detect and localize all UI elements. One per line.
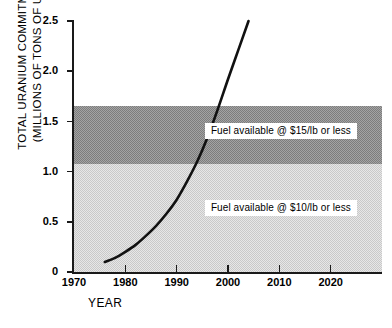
- x-axis-title: YEAR: [88, 296, 122, 310]
- y-tick-label-2.0: 2.0: [43, 64, 58, 76]
- y-tick-label-1.0: 1.0: [43, 165, 58, 177]
- x-tick-label-1990: 1990: [164, 276, 188, 288]
- x-tick-label-1970: 1970: [62, 276, 86, 288]
- y-tick-1.5: 1.5: [67, 121, 74, 123]
- y-tick-label-0.5: 0.5: [43, 215, 58, 227]
- y-tick-2.0: 2.0: [67, 70, 74, 72]
- y-tick-label-1.5: 1.5: [43, 115, 58, 127]
- x-tick-label-2020: 2020: [318, 276, 342, 288]
- plot-area: 00.51.01.52.02.5 19701980199020002010202…: [74, 21, 382, 272]
- data-curve-layer: [74, 21, 382, 273]
- y-axis-title-line1: TOTAL URANIUM COMMITMENTS: [15, 0, 30, 171]
- y-tick-2.5: 2.5: [67, 20, 74, 22]
- y-tick-0: 0: [67, 271, 74, 273]
- series-line-total-uranium-commitments: [105, 21, 249, 262]
- y-tick-label-2.5: 2.5: [43, 14, 58, 26]
- y-tick-label-0: 0: [52, 265, 58, 277]
- y-tick-0.5: 0.5: [67, 221, 74, 223]
- annotation-fuel-10-label: Fuel available @ $10/lb or less: [205, 200, 357, 216]
- uranium-commitments-chart: TOTAL URANIUM COMMITMENTS (MILLIONS OF T…: [0, 0, 392, 328]
- annotation-fuel-15-label: Fuel available @ $15/lb or less: [205, 123, 357, 139]
- x-tick-label-1980: 1980: [113, 276, 137, 288]
- x-tick-label-2010: 2010: [267, 276, 291, 288]
- y-axis-title-line2-pre: (MILLIONS OF TONS OF U: [31, 0, 43, 142]
- x-tick-label-2000: 2000: [216, 276, 240, 288]
- y-tick-1.0: 1.0: [67, 171, 74, 173]
